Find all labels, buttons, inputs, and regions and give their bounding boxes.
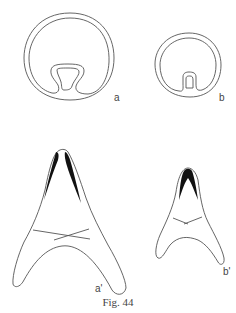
panel-a-prime-dark-bands xyxy=(44,152,81,203)
panel-label-a: a xyxy=(114,92,120,103)
panel-a-ring xyxy=(24,13,114,100)
figure-caption: Fig. 44 xyxy=(0,296,236,308)
panel-label-b: b xyxy=(219,92,225,103)
panel-b-ring xyxy=(155,33,221,97)
panel-label-a-prime: a' xyxy=(95,283,102,294)
panel-label-b-prime: b' xyxy=(223,266,230,277)
panel-b-prime-structure xyxy=(156,168,224,264)
figure-drawing xyxy=(0,0,236,313)
